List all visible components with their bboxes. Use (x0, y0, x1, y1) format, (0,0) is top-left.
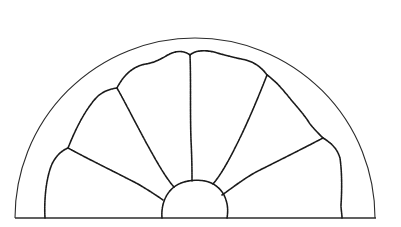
spoke-right-bottom (222, 138, 323, 195)
lobe-right-mid (267, 75, 323, 138)
spoke-left-mid (117, 88, 174, 187)
spoke-center (190, 55, 192, 181)
hub-arc (162, 180, 228, 218)
fanlight-window-drawing (0, 0, 401, 227)
lobe-left-bottom (45, 148, 68, 218)
spoke-right-mid (213, 75, 267, 184)
lobe-right-top (190, 51, 267, 75)
lobe-left-top (117, 52, 190, 88)
lobe-right-bottom (323, 138, 342, 218)
outer-arc (15, 38, 375, 218)
lobe-left-mid (68, 88, 117, 148)
spoke-left-bottom (68, 148, 163, 200)
